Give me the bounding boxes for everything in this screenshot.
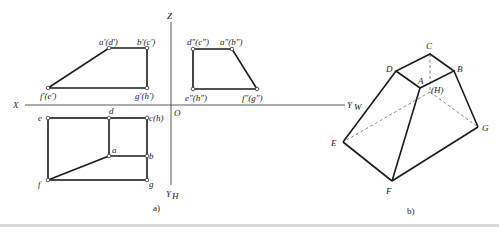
label-A: A (417, 76, 424, 86)
label-c-h: c(h) (149, 113, 164, 123)
side-view: d"(c") a"(b") e"(h") f"(g") (185, 37, 263, 103)
label-G: G (482, 123, 489, 133)
axis-label-yw-sub: W (354, 102, 363, 112)
label-H: (H) (431, 85, 444, 95)
origin-label: O (174, 108, 181, 118)
label-a-prime-d-prime: a'(d') (99, 37, 118, 47)
label-d-double-prime-c-double-prime: d"(c") (187, 37, 209, 47)
isometric-view: C D B A (H) E F G (330, 41, 489, 196)
caption-a: a) (153, 203, 160, 213)
label-d: d (109, 106, 114, 116)
label-f: f (38, 179, 42, 189)
top-view: e d c(h) a b f g (38, 106, 164, 189)
point-a (107, 154, 111, 158)
front-view: a'(d') b'(c') f'(e') g'(h') (40, 37, 155, 101)
label-C: C (426, 41, 433, 51)
top-face-abcd (396, 54, 454, 88)
point-f-double-prime (255, 87, 259, 91)
point-e (46, 116, 50, 120)
axis-label-yw: Y (347, 100, 353, 110)
label-f-double-prime-g-double-prime: f"(g") (242, 93, 263, 103)
edge-F-G (392, 127, 478, 181)
point-e-double-prime (191, 87, 195, 91)
axis-label-yh-sub: H (171, 191, 179, 201)
point-f (46, 178, 50, 182)
edge-A-F (392, 88, 420, 181)
label-b: b (149, 151, 154, 161)
edge-E-F (343, 142, 392, 181)
edge-a-f (48, 156, 109, 180)
label-a: a (112, 145, 117, 155)
orthographic-projection-diagram: Z X Y W Y H O a'(d') b'(c') f'(e') g'(h'… (0, 0, 499, 227)
label-g-prime-h-prime: g'(h') (135, 91, 154, 101)
bottom-rule (0, 224, 499, 227)
point-a-double-prime (230, 47, 234, 51)
axis-label-z: Z (167, 11, 173, 21)
label-g: g (149, 179, 154, 189)
label-a-double-prime-b-double-prime: a"(b") (220, 37, 243, 47)
label-B: B (457, 64, 463, 74)
label-F: F (385, 186, 392, 196)
side-view-outline (193, 49, 257, 89)
label-e-double-prime-h-double-prime: e"(h") (185, 93, 207, 103)
point-d-double-prime (191, 47, 195, 51)
label-e: e (38, 113, 42, 123)
label-b-prime-c-prime: b'(c') (137, 37, 155, 47)
label-E: E (330, 138, 337, 148)
label-D: D (385, 64, 393, 74)
front-view-outline (48, 48, 147, 88)
caption-b: b) (407, 206, 415, 216)
point-f-prime (46, 86, 50, 90)
top-view-outline (48, 118, 147, 180)
label-f-prime-e-prime: f'(e') (40, 91, 56, 101)
point-d (107, 116, 111, 120)
axis-label-x: X (12, 100, 19, 110)
point-g-prime (145, 86, 149, 90)
